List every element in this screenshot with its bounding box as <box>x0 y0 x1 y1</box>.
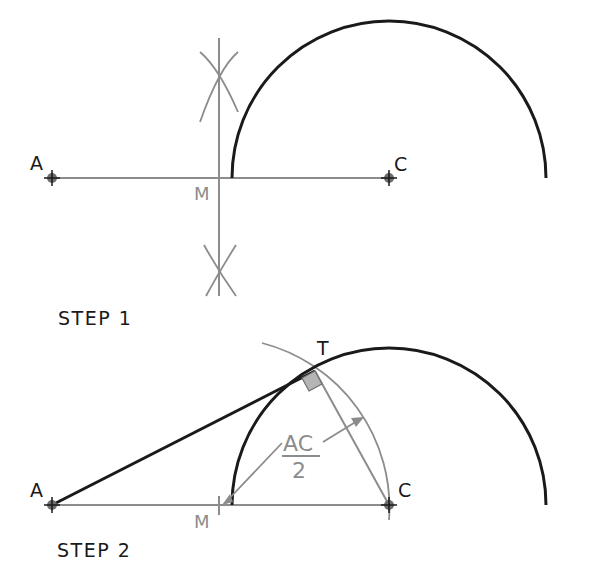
crosshair-a-icon <box>44 170 60 186</box>
tangent-line-at <box>52 371 315 505</box>
semicircle-step2 <box>232 348 546 505</box>
crosshair-c2-icon <box>381 497 397 513</box>
arc-radius-mc <box>262 343 389 520</box>
segment-tc <box>315 371 389 505</box>
label-t: T <box>316 337 329 359</box>
arrowhead-arc-icon <box>351 417 364 427</box>
label-c: C <box>394 153 407 175</box>
label-a: A <box>30 152 43 174</box>
crosshair-a2-icon <box>44 497 60 513</box>
construction-diagram: A C M STEP 1 AC 2 A C M T STEP <box>0 0 589 582</box>
label-c2: C <box>398 479 411 501</box>
step2-caption: STEP 2 <box>57 539 131 561</box>
step1-caption: STEP 1 <box>58 307 132 329</box>
leader-to-m <box>225 443 282 503</box>
label-m2: M <box>194 511 210 532</box>
label-a2: A <box>30 479 43 501</box>
fraction-denominator: 2 <box>292 458 306 483</box>
label-m: M <box>194 183 210 204</box>
step1-group: A C M STEP 1 <box>30 21 546 329</box>
semicircle-step1 <box>232 21 546 178</box>
step2-group: AC 2 A C M T STEP 2 <box>30 337 546 561</box>
fraction-numerator: AC <box>283 431 313 456</box>
